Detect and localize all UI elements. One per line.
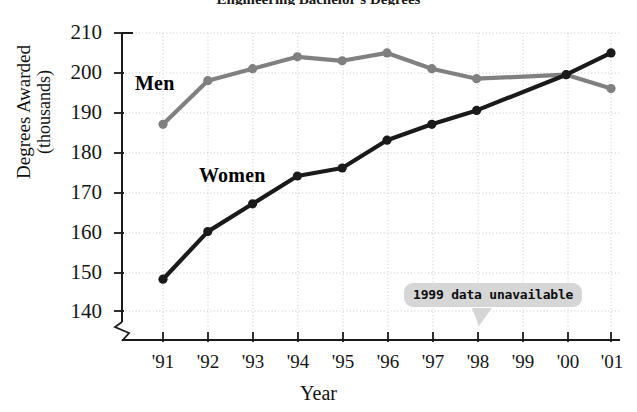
data-point [158, 275, 167, 284]
plot-area [0, 0, 637, 412]
data-point [293, 52, 302, 61]
data-point [248, 199, 257, 208]
data-point [382, 48, 391, 57]
data-point [382, 136, 391, 145]
data-point [427, 64, 436, 73]
data-point [338, 163, 347, 172]
data-point [427, 120, 436, 129]
y-axis-break-icon [115, 322, 129, 341]
data-point [606, 48, 615, 57]
data-point [293, 171, 302, 180]
data-point [562, 70, 571, 79]
data-point [338, 56, 347, 65]
series-women [158, 48, 615, 284]
chart-container: Engineering Bachelor's Degrees Degrees A… [0, 0, 637, 412]
data-point [203, 227, 212, 236]
data-point [158, 120, 167, 129]
series-men [158, 48, 615, 129]
data-point [606, 84, 615, 93]
annotation-callout-tail [472, 308, 492, 326]
data-point [248, 64, 257, 73]
data-point [472, 106, 481, 115]
annotation-callout: 1999 data unavailable [404, 283, 582, 307]
data-point [203, 76, 212, 85]
data-point [472, 74, 481, 83]
